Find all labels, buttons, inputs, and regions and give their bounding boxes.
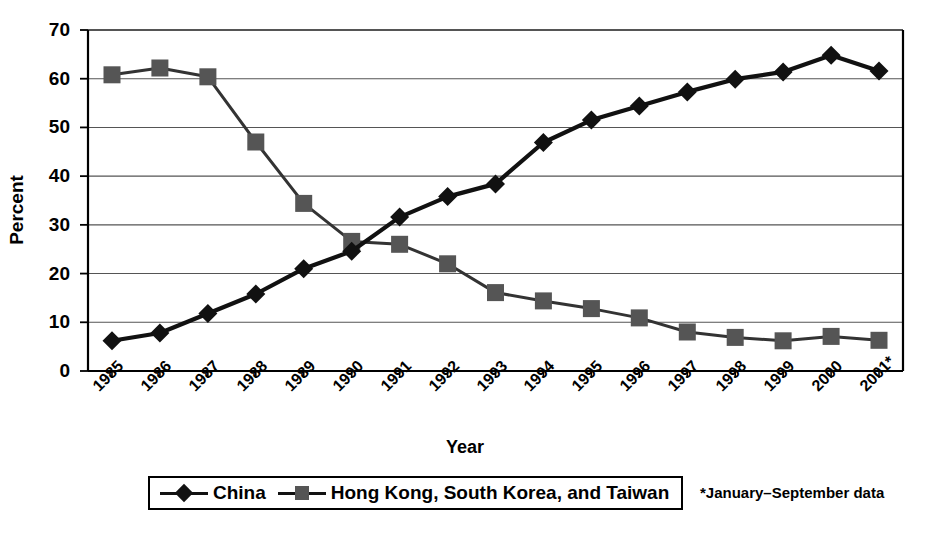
y-tick-20: 20 [22,264,70,283]
data-point-china-1992 [438,187,457,206]
data-point-hkskt-1996 [631,309,648,326]
y-tick-0: 0 [22,361,70,380]
data-point-hkskt-1986 [151,60,168,77]
chart-footnote: *January–September data [700,484,884,501]
y-tick-70: 70 [22,20,70,39]
data-point-hkskt-1994 [535,292,552,309]
data-point-hkskt-2000 [823,328,840,345]
data-point-china-1987 [198,304,217,323]
y-tick-50: 50 [22,117,70,136]
data-point-china-1998 [726,70,745,89]
legend-label-china: China [213,482,266,504]
data-point-china-1989 [294,259,313,278]
legend-label-hkskt: Hong Kong, South Korea, and Taiwan [331,482,669,504]
data-point-hkskt-1997 [679,324,696,341]
y-tick-60: 60 [22,69,70,88]
y-tick-10: 10 [22,312,70,331]
chart-legend: China Hong Kong, South Korea, and Taiwan [148,476,683,510]
data-point-hkskt-2001star [871,332,888,349]
data-point-hkskt-1989 [295,195,312,212]
data-point-hkskt-1985 [104,66,121,83]
diamond-marker-icon [160,483,208,503]
data-point-hkskt-1991 [391,236,408,253]
data-point-hkskt-1999 [775,332,792,349]
data-point-china-1988 [246,285,265,304]
data-point-hkskt-1998 [727,329,744,346]
data-point-china-1996 [630,97,649,116]
data-point-china-1997 [678,82,697,101]
data-point-china-1985 [103,331,122,350]
chart-container: Percent 010203040506070 1985198619871988… [0,0,930,536]
data-point-hkskt-1987 [199,68,216,85]
legend-entry-hkskt: Hong Kong, South Korea, and Taiwan [278,482,671,504]
x-axis-title: Year [0,437,930,458]
data-point-china-2000 [822,46,841,65]
data-point-china-1986 [150,324,169,343]
data-point-hkskt-1995 [583,300,600,317]
data-point-china-1995 [582,111,601,130]
data-point-hkskt-1992 [439,255,456,272]
y-tick-30: 30 [22,215,70,234]
legend-entry-china: China [160,482,268,504]
data-point-hkskt-1993 [487,284,504,301]
square-marker-icon [278,483,326,503]
y-tick-40: 40 [22,166,70,185]
data-point-china-2001star [870,61,889,80]
data-point-hkskt-1988 [247,134,264,151]
